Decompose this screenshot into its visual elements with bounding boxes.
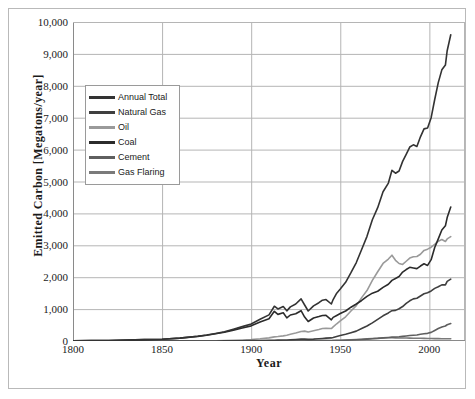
legend-swatch-line-icon <box>89 111 115 114</box>
legend-label: Gas Flaring <box>118 168 165 177</box>
x-tick-label: 1800 <box>62 344 84 355</box>
legend-swatch-line-icon <box>89 126 115 129</box>
y-tick-label: 10,000 <box>22 17 68 28</box>
series-line-annual-total <box>73 35 451 341</box>
legend-item: Natural Gas <box>89 105 176 120</box>
legend-item: Cement <box>89 150 176 165</box>
y-tick-label: 6,000 <box>22 145 68 156</box>
y-tick-label: 2,000 <box>22 272 68 283</box>
y-tick-label: 9,000 <box>22 49 68 60</box>
legend-swatch-line-icon <box>89 96 115 99</box>
y-axis-tick-labels: 01,0002,0003,0004,0005,0006,0007,0008,00… <box>18 22 68 341</box>
legend-item: Oil <box>89 120 176 135</box>
legend-item: Annual Total <box>89 90 176 105</box>
x-tick-label: 1850 <box>151 344 173 355</box>
legend-item: Coal <box>89 135 176 150</box>
y-tick-label: 4,000 <box>22 208 68 219</box>
y-tick-label: 3,000 <box>22 240 68 251</box>
legend-label: Cement <box>118 153 150 162</box>
legend-swatch-line-icon <box>89 171 115 174</box>
y-tick-label: 5,000 <box>22 177 68 188</box>
y-tick-label: 1,000 <box>22 304 68 315</box>
series-line-oil <box>73 237 451 341</box>
legend-label: Natural Gas <box>118 108 166 117</box>
x-tick-label: 1950 <box>329 344 351 355</box>
legend-item: Gas Flaring <box>89 165 176 180</box>
x-tick-label: 2000 <box>418 344 440 355</box>
y-tick-label: 7,000 <box>22 113 68 124</box>
x-axis-title: Year <box>73 356 465 371</box>
chart-figure: Emitted Carbon [Megatons/year] 01,0002,0… <box>0 0 475 399</box>
legend-swatch-line-icon <box>89 156 115 159</box>
legend-swatch-line-icon <box>89 141 115 144</box>
legend-label: Coal <box>118 138 137 147</box>
series-line-coal <box>73 207 451 341</box>
legend-label: Oil <box>118 123 129 132</box>
chart-legend: Annual TotalNatural GasOilCoalCementGas … <box>85 85 180 185</box>
y-tick-label: 8,000 <box>22 81 68 92</box>
legend-label: Annual Total <box>118 93 167 102</box>
x-tick-label: 1900 <box>240 344 262 355</box>
